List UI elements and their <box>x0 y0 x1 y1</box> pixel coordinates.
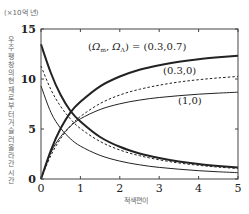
chart-area: 012345051015 (Ωm, ΩΛ) = (0.3,0.7) (0.3,0… <box>0 0 249 214</box>
y-tick-label: 0 <box>28 173 36 186</box>
series-line-0 <box>41 56 238 179</box>
series-line-2 <box>41 76 238 179</box>
x-tick-label: 3 <box>156 182 163 195</box>
x-tick-label: 1 <box>77 182 84 195</box>
series-line-1 <box>41 44 238 167</box>
x-tick-label: 2 <box>116 182 123 195</box>
y-tick-label: 15 <box>21 23 36 36</box>
legend-main-label: (Ωm, ΩΛ) = (0.3,0.7) <box>88 41 186 53</box>
x-tick-label: 0 <box>38 182 45 195</box>
series-line-5 <box>41 86 238 173</box>
legend-thin-label: (1,0) <box>178 95 202 106</box>
plot-lines <box>41 44 238 179</box>
legend-dashed-label: (0.3,0) <box>163 65 196 76</box>
y-tick-label: 10 <box>21 73 37 86</box>
y-tick-label: 5 <box>28 123 36 136</box>
x-tick-label: 5 <box>235 182 242 195</box>
x-tick-label: 4 <box>195 182 202 195</box>
